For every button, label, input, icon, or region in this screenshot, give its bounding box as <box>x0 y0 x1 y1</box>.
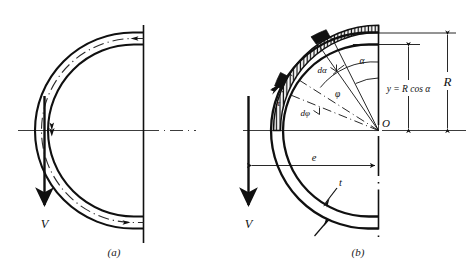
canvas-background <box>0 0 471 272</box>
figure-container: V (a) <box>0 0 471 272</box>
radius-label: R <box>443 74 452 89</box>
origin-label: O <box>382 117 390 129</box>
angle-phi-label: φ <box>335 89 340 99</box>
ordinate-label: y = R cos α <box>386 84 432 94</box>
panel-b-caption: (b) <box>352 246 365 259</box>
panel-a-caption: (a) <box>108 246 121 259</box>
delta-phi-label: dφ <box>301 108 311 118</box>
eccentricity-label: e <box>312 152 317 163</box>
delta-alpha-label: dα <box>318 65 328 75</box>
engineering-diagram-svg: V (a) <box>0 0 471 272</box>
